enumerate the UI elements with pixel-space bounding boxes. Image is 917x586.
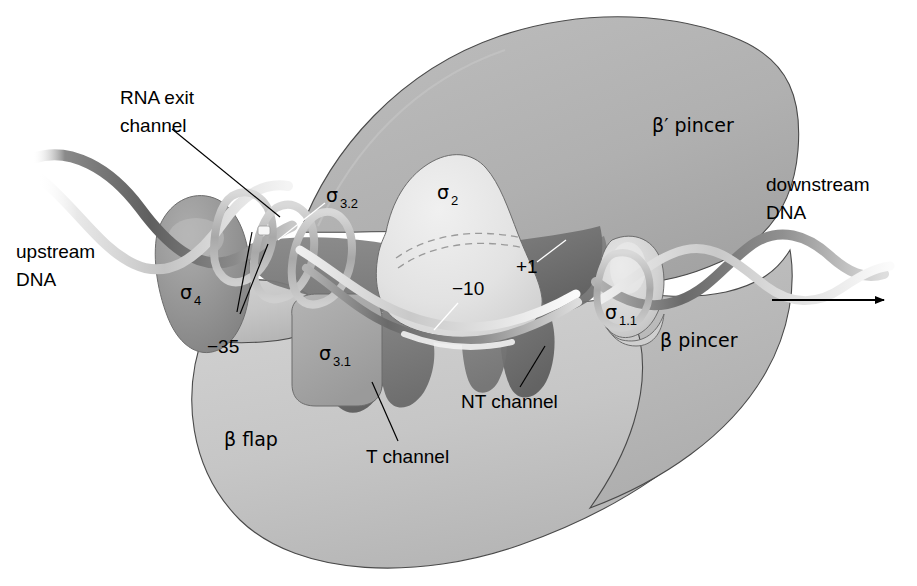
label-rna-exit-channel-line2: channel (120, 115, 187, 136)
label-sigma-3-1-subscript: 3.1 (333, 354, 351, 369)
label-sigma-3-1-glyph: σ (319, 342, 331, 364)
rna-exit-channel-notch (258, 226, 270, 235)
label-upstream-dna-line1: upstream (16, 241, 95, 262)
figure-canvas: RNA exit channel upstream DNA downstream… (0, 0, 917, 586)
label-t-channel: T channel (366, 446, 449, 467)
label-sigma-3-2-subscript: 3.2 (340, 196, 358, 211)
label-sigma-2-glyph: σ (437, 181, 449, 203)
rnap-holoenzyme-diagram: RNA exit channel upstream DNA downstream… (0, 0, 917, 586)
label-downstream-dna-line1: downstream (766, 174, 870, 195)
label-sigma-3-2-glyph: σ (326, 184, 338, 206)
label-plus-1: +1 (516, 256, 538, 277)
label-minus-35: −35 (207, 336, 239, 357)
label-nt-channel: NT channel (461, 391, 558, 412)
label-beta-flap: β flap (224, 428, 278, 450)
label-sigma-1-1-subscript: 1.1 (619, 313, 637, 328)
label-sigma-4-subscript: 4 (194, 293, 201, 308)
label-beta-prime-pincer: β′ pincer (652, 114, 734, 136)
label-minus-10: −10 (452, 278, 484, 299)
label-rna-exit-channel-line1: RNA exit (120, 87, 195, 108)
label-sigma-2-subscript: 2 (451, 193, 458, 208)
label-upstream-dna-line2: DNA (16, 269, 56, 290)
label-beta-pincer: β pincer (660, 329, 738, 351)
label-downstream-dna-line2: DNA (766, 202, 806, 223)
label-sigma-1-1-glyph: σ (605, 301, 617, 323)
label-sigma-4-glyph: σ (180, 281, 192, 303)
